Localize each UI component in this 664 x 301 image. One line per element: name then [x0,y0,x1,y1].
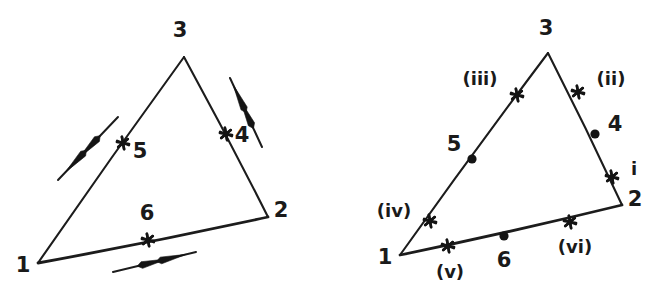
edge-1-3 [38,57,184,263]
marker-label-5: 5 [133,139,148,163]
marker-label-4: 4 [235,123,250,147]
left-marker-labels: 5 4 6 [133,123,250,225]
marker-label-4: 4 [608,112,623,136]
star-marker-glyph [424,215,436,227]
marker-label-iv: (iv) [377,200,411,221]
star-marker-glyph [142,234,154,246]
star-marker-glyph [572,86,584,98]
vertex-label-3: 3 [173,18,188,42]
marker-label-iii: (iii) [463,68,498,89]
vertex-label-2: 2 [274,198,289,222]
right-triangle-edges [400,53,622,255]
marker-label-v: (v) [436,261,464,282]
arrowhead-glyph [233,85,247,113]
right-markers [424,86,618,252]
figure-container: 1 2 3 5 4 6 1 2 3 [0,0,664,301]
left-panel: 1 2 3 5 4 6 [0,0,332,301]
vertex-label-1: 1 [16,253,31,277]
arrowhead-glyph [156,254,186,263]
double-arrow-edge-1-3 [58,117,118,180]
dot-marker-glyph [590,129,599,138]
marker-label-ii: (ii) [597,68,626,89]
marker-label-5: 5 [447,132,462,156]
vertex-label-2: 2 [628,187,643,211]
marker-label-6: 6 [497,248,512,272]
vertex-label-3: 3 [539,16,554,40]
double-arrow-edge-1-2 [113,252,196,272]
arrowhead-glyph [65,150,86,172]
left-vectors [58,78,262,272]
marker-label-6: 6 [140,201,155,225]
marker-label-vi: (vi) [558,236,592,257]
star-marker-glyph [117,137,129,149]
star-marker-glyph [442,240,454,252]
right-marker-labels: (iii) (ii) 4 i 5 (iv) (v) 6 (vi) [377,68,637,282]
right-panel-canvas: 1 2 3 (iii) (ii) 4 i 5 (iv) (v) 6 (vi) [332,0,664,301]
left-panel-canvas: 1 2 3 5 4 6 [0,0,332,301]
dot-marker-glyph [499,231,508,240]
vertex-label-1: 1 [378,245,393,269]
star-marker-glyph [220,128,232,140]
right-panel: 1 2 3 (iii) (ii) 4 i 5 (iv) (v) 6 (vi) [332,0,664,301]
marker-label-i: i [631,158,637,179]
dot-marker-glyph [467,154,476,163]
star-marker-glyph [511,89,523,101]
